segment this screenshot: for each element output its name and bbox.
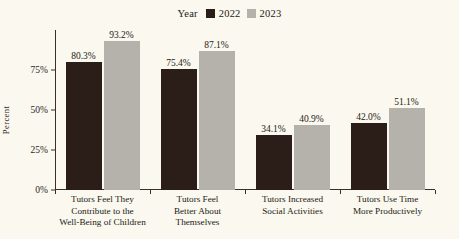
x-axis-labels: Tutors Feel TheyContribute to theWell-Be… — [55, 194, 435, 239]
bar-rect — [104, 41, 140, 190]
bar-chart: Year 2022 2023 Percent 0%25%50%75% 80.3%… — [0, 0, 459, 239]
x-axis-label-line: More Productively — [340, 206, 435, 218]
bar-value-label: 34.1% — [261, 124, 286, 134]
y-tick-mark — [51, 110, 55, 111]
chart-legend: Year 2022 2023 — [0, 8, 459, 19]
bar-rect — [389, 108, 425, 190]
x-axis-label-line: Social Activities — [245, 206, 340, 218]
bar-value-label: 51.1% — [394, 97, 419, 107]
bar-2023: 51.1% — [389, 30, 425, 190]
x-axis-label-line: Well-Being of Children — [55, 217, 150, 229]
bar-2022: 75.4% — [161, 30, 197, 190]
y-axis-line — [55, 30, 56, 190]
bar-2022: 80.3% — [66, 30, 102, 190]
x-axis-label: Tutors Feel TheyContribute to theWell-Be… — [55, 194, 150, 229]
x-axis-label: Tutors IncreasedSocial Activities — [245, 194, 340, 217]
x-axis-label-line: Tutors Feel They — [55, 194, 150, 206]
bar-value-label: 75.4% — [166, 58, 191, 68]
bar-value-label: 93.2% — [109, 30, 134, 40]
bar-rect — [351, 123, 387, 190]
bar-rect — [161, 69, 197, 190]
bar-value-label: 42.0% — [356, 112, 381, 122]
bar-rect — [294, 125, 330, 190]
bar-2023: 93.2% — [104, 30, 140, 190]
legend-label-2023: 2023 — [260, 8, 282, 19]
bar-rect — [66, 62, 102, 190]
legend-label-2022: 2022 — [219, 8, 241, 19]
bar-group: 42.0%51.1% — [351, 30, 425, 190]
x-axis-label-line: Contribute to the — [55, 206, 150, 218]
bar-2022: 42.0% — [351, 30, 387, 190]
x-axis-label-line: Tutors Feel — [150, 194, 245, 206]
x-axis-label-line: Better About — [150, 206, 245, 218]
bar-2023: 87.1% — [199, 30, 235, 190]
plot-area: 0%25%50%75% 80.3%93.2%75.4%87.1%34.1%40.… — [55, 30, 435, 190]
legend-item-2022: 2022 — [206, 8, 241, 19]
bar-value-label: 87.1% — [204, 40, 229, 50]
bar-value-label: 80.3% — [71, 51, 96, 61]
y-axis-title: Percent — [1, 105, 11, 133]
x-tick-mark — [435, 190, 436, 194]
x-axis-label: Tutors Use TimeMore Productively — [340, 194, 435, 217]
bar-group: 80.3%93.2% — [66, 30, 140, 190]
x-axis-label: Tutors FeelBetter AboutThemselves — [150, 194, 245, 229]
y-tick-mark — [51, 150, 55, 151]
legend-title: Year — [178, 8, 198, 19]
legend-swatch-2023-icon — [247, 9, 256, 18]
x-axis-label-line: Tutors Increased — [245, 194, 340, 206]
y-tick-mark — [51, 70, 55, 71]
bar-value-label: 40.9% — [299, 114, 324, 124]
bar-group: 75.4%87.1% — [161, 30, 235, 190]
x-axis-label-line: Themselves — [150, 217, 245, 229]
bar-group: 34.1%40.9% — [256, 30, 330, 190]
legend-swatch-2022-icon — [206, 9, 215, 18]
x-axis-label-line: Tutors Use Time — [340, 194, 435, 206]
bar-2022: 34.1% — [256, 30, 292, 190]
bar-rect — [199, 51, 235, 190]
legend-item-2023: 2023 — [247, 8, 282, 19]
bar-rect — [256, 135, 292, 190]
bar-2023: 40.9% — [294, 30, 330, 190]
